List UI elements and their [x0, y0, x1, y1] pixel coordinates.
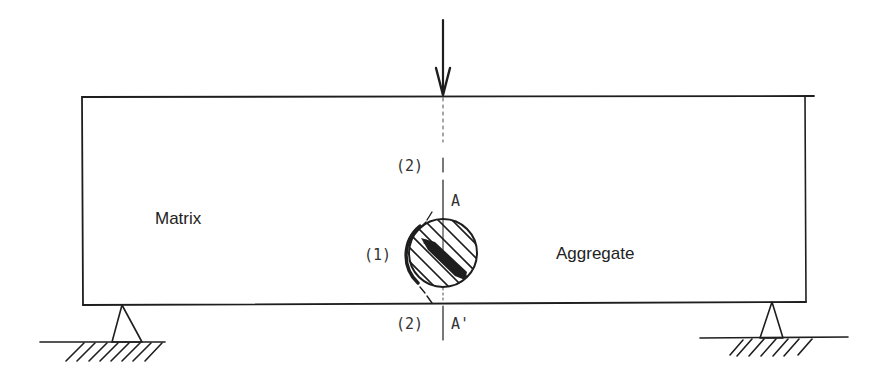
label-crack-1: (1) [364, 246, 391, 264]
label-matrix: Matrix [155, 209, 202, 228]
label-section-a-prime: A' [451, 315, 469, 333]
right-support [700, 302, 848, 356]
left-support [40, 305, 165, 361]
label-crack-2-bottom: (2) [396, 315, 423, 333]
label-section-a: A [451, 192, 460, 210]
ground-hatch-left [66, 343, 162, 361]
load-arrow-icon [436, 20, 450, 95]
label-crack-2-top: (2) [396, 157, 423, 175]
ground-hatch-right [730, 339, 812, 356]
label-aggregate: Aggregate [556, 244, 634, 263]
beam [82, 96, 814, 305]
beam-with-aggregate-diagram: Matrix Aggregate (1) (2) (2) A A' [0, 0, 890, 379]
